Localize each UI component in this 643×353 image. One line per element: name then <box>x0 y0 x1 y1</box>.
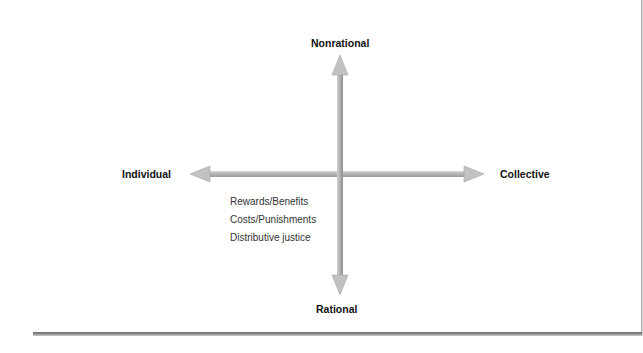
axis-label-top: Nonrational <box>311 37 369 49</box>
quadrant-item: Costs/Punishments <box>230 211 316 229</box>
arrowhead-right-icon <box>464 166 484 182</box>
arrowhead-up-icon <box>332 55 348 75</box>
arrowhead-left-icon <box>190 166 210 182</box>
arrowhead-down-icon <box>332 275 348 295</box>
axis-label-bottom: Rational <box>316 303 357 315</box>
quadrant-item: Rewards/Benefits <box>230 193 316 211</box>
axis-label-right: Collective <box>500 168 550 180</box>
lower-left-quadrant-items: Rewards/Benefits Costs/Punishments Distr… <box>230 193 316 247</box>
quadrant-item: Distributive justice <box>230 229 316 247</box>
axis-label-left: Individual <box>122 168 171 180</box>
